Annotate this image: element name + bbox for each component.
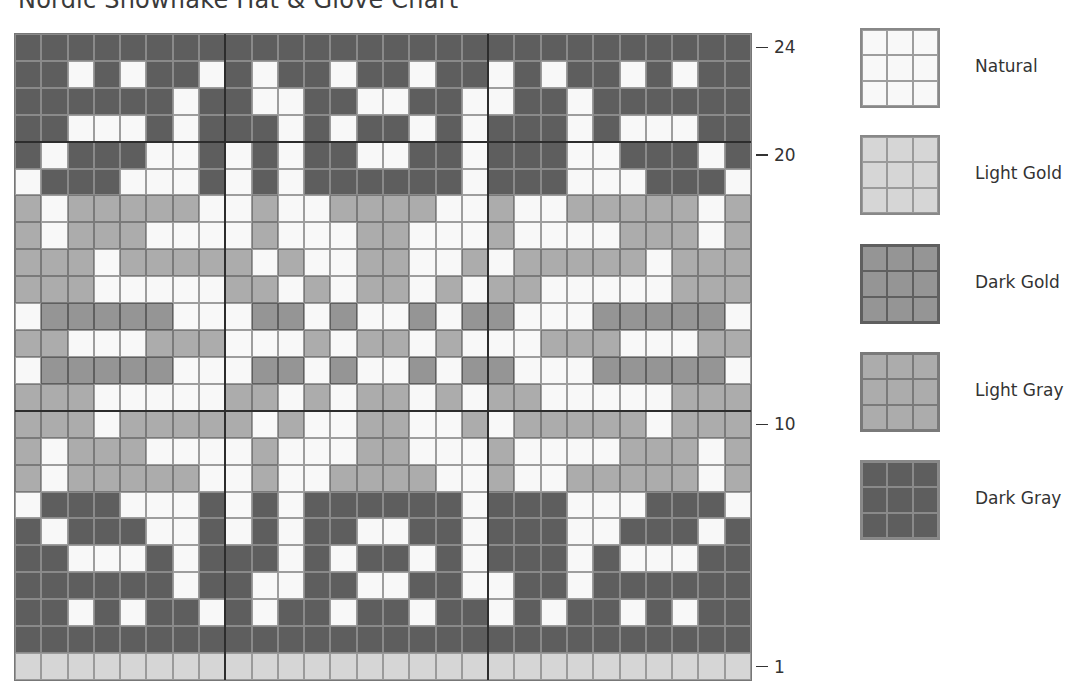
stitch-cell (409, 222, 435, 249)
stitch-cell (383, 249, 409, 276)
stitch-cell (725, 115, 751, 142)
stitch-cell (462, 653, 488, 680)
stitch-cell (199, 384, 225, 411)
stitch-cell (357, 411, 383, 438)
stitch-cell (541, 222, 567, 249)
stitch-cell (409, 357, 435, 384)
stitch-cell (514, 276, 540, 303)
stitch-cell (173, 599, 199, 626)
stitch-cell (41, 626, 67, 653)
stitch-cell (436, 626, 462, 653)
stitch-cell (725, 384, 751, 411)
stitch-cell (383, 599, 409, 626)
stitch-cell (330, 249, 356, 276)
stitch-cell (278, 626, 304, 653)
stitch-cell (146, 330, 172, 357)
stitch-cell (94, 88, 120, 115)
stitch-cell (15, 169, 41, 196)
stitch-cell (409, 465, 435, 492)
stitch-cell (672, 492, 698, 519)
stitch-cell (199, 330, 225, 357)
stitch-cell (488, 88, 514, 115)
swatch-cell (887, 246, 912, 271)
stitch-cell (672, 599, 698, 626)
row-number: 10 (774, 414, 796, 434)
stitch-cell (541, 61, 567, 88)
stitch-cell (567, 169, 593, 196)
stitch-cell (409, 61, 435, 88)
stitch-cell (252, 195, 278, 222)
stitch-cell (68, 545, 94, 572)
stitch-cell (620, 492, 646, 519)
stitch-cell (436, 653, 462, 680)
swatch-cell (862, 81, 887, 106)
stitch-cell (357, 222, 383, 249)
stitch-cell (252, 438, 278, 465)
swatch-cell (862, 354, 887, 379)
swatch-cell (887, 354, 912, 379)
stitch-cell (593, 545, 619, 572)
stitch-cell (252, 222, 278, 249)
stitch-cell (357, 545, 383, 572)
stitch-cell (646, 492, 672, 519)
stitch-cell (646, 115, 672, 142)
legend-item-light-gray: Light Gray (858, 352, 1083, 436)
row-number: 24 (774, 37, 796, 57)
stitch-cell (68, 330, 94, 357)
stitch-cell (593, 169, 619, 196)
stitch-cell (698, 61, 724, 88)
stitch-cell (173, 88, 199, 115)
stitch-cell (68, 88, 94, 115)
stitch-cell (173, 169, 199, 196)
stitch-cell (541, 276, 567, 303)
swatch-cell (887, 379, 912, 404)
stitch-cell (514, 222, 540, 249)
stitch-cell (225, 115, 251, 142)
stitch-cell (488, 357, 514, 384)
stitch-cell (278, 142, 304, 169)
stitch-cell (541, 465, 567, 492)
stitch-cell (15, 249, 41, 276)
legend-item-natural: Natural (858, 28, 1083, 112)
stitch-cell (409, 411, 435, 438)
swatch-dark-gray (860, 460, 940, 540)
stitch-cell (672, 411, 698, 438)
stitch-cell (225, 411, 251, 438)
stitch-cell (567, 626, 593, 653)
stitch-cell (725, 34, 751, 61)
stitch-cell (646, 88, 672, 115)
stitch-cell (68, 492, 94, 519)
stitch-cell (541, 249, 567, 276)
stitch-cell (436, 599, 462, 626)
stitch-cell (514, 88, 540, 115)
stitch-cell (252, 653, 278, 680)
stitch-cell (41, 572, 67, 599)
stitch-cell (252, 169, 278, 196)
stitch-cell (383, 357, 409, 384)
stitch-cell (304, 626, 330, 653)
stitch-cell (698, 384, 724, 411)
stitch-cell (199, 115, 225, 142)
stitch-cell (567, 465, 593, 492)
stitch-cell (278, 222, 304, 249)
swatch-cell (887, 30, 912, 55)
stitch-cell (146, 384, 172, 411)
stitch-cell (146, 115, 172, 142)
swatch-cell (913, 487, 938, 512)
stitch-cell (330, 572, 356, 599)
stitch-cell (436, 34, 462, 61)
stitch-cell (514, 142, 540, 169)
stitch-cell (252, 599, 278, 626)
stitch-cell (567, 545, 593, 572)
stitch-cell (620, 438, 646, 465)
stitch-cell (383, 465, 409, 492)
stitch-cell (304, 653, 330, 680)
stitch-cell (120, 572, 146, 599)
stitch-cell (514, 34, 540, 61)
stitch-cell (41, 169, 67, 196)
stitch-cell (620, 303, 646, 330)
stitch-cell (672, 438, 698, 465)
swatch-cell (887, 81, 912, 106)
stitch-cell (620, 626, 646, 653)
stitch-cell (541, 142, 567, 169)
